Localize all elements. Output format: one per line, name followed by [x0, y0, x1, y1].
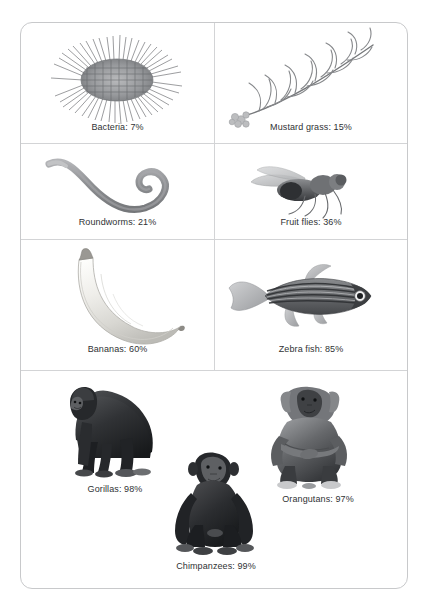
label-roundworms: Roundworms: 21% [21, 217, 214, 228]
label-chimpanzees: Chimpanzees: 99% [140, 561, 292, 572]
dna-similarity-infographic: Bacteria: 7% [0, 0, 432, 614]
label-orangutans: Orangutans: 97% [243, 494, 393, 505]
chimpanzee-illustration [157, 451, 275, 561]
label-mustard-grass: Mustard grass: 15% [215, 122, 407, 133]
label-bacteria: Bacteria: 7% [21, 122, 214, 133]
label-zebra-fish: Zebra fish: 85% [215, 344, 407, 355]
label-fruit-flies: Fruit flies: 36% [215, 217, 407, 228]
label-bananas: Bananas: 60% [21, 344, 214, 355]
orangutan-illustration [259, 386, 361, 491]
gorilla-illustration [58, 378, 168, 483]
